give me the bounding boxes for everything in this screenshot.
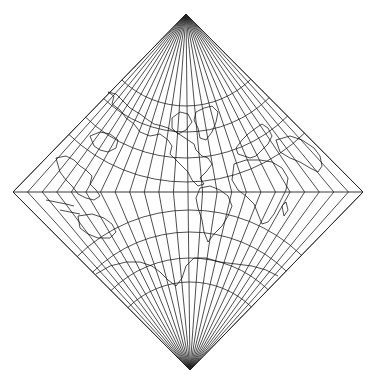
meridian-north: [130, 14, 186, 192]
meridian-south: [190, 192, 246, 370]
coast-arctic-islands: [172, 112, 192, 134]
meridian-south: [71, 192, 190, 370]
meridian-south: [190, 192, 217, 370]
coast-indonesia: [46, 200, 80, 214]
meridian-north: [186, 14, 276, 192]
meridian-south: [101, 192, 191, 370]
meridian-north: [186, 14, 305, 192]
meridian-north: [71, 14, 186, 192]
meridian-south: [190, 192, 290, 370]
meridian-south: [115, 192, 190, 370]
meridian-north: [57, 14, 186, 192]
meridian-south: [28, 192, 190, 370]
meridian-south: [144, 192, 190, 370]
meridian-south: [190, 192, 348, 370]
meridian-south: [190, 192, 276, 370]
meridian-north: [186, 14, 319, 192]
coast-north-america: [108, 92, 212, 186]
meridian-north: [186, 14, 246, 192]
meridian-south: [190, 192, 305, 370]
meridian-south: [190, 192, 334, 370]
meridian-north: [42, 14, 186, 192]
meridian-north: [86, 14, 186, 192]
meridian-north: [186, 14, 261, 192]
meridian-north: [186, 14, 203, 192]
meridian-north: [186, 14, 188, 192]
meridian-south: [188, 192, 190, 370]
world-map: [0, 0, 376, 386]
meridian-south: [57, 192, 190, 370]
projection-frame: [13, 14, 363, 370]
meridian-south: [42, 192, 190, 370]
coast-west-asia: [276, 136, 322, 172]
meridian-south: [173, 192, 190, 370]
meridian-south: [190, 192, 319, 370]
